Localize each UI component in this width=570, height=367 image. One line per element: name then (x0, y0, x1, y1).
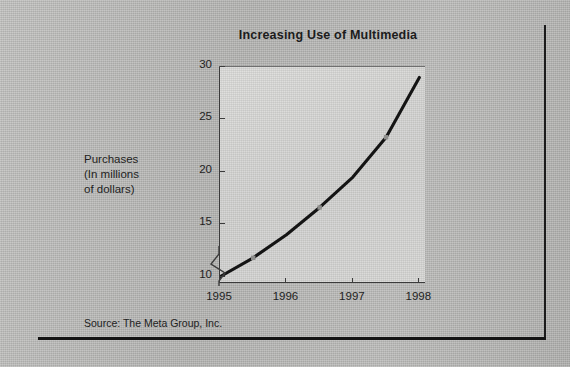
y-axis-tick-mark (220, 171, 225, 172)
x-axis-tick-label: 1996 (263, 290, 307, 302)
data-point-marker (317, 205, 321, 209)
data-point-marker (251, 256, 255, 260)
y-axis-label: Purchases (In millions of dollars) (84, 152, 194, 197)
series-line-purchases (220, 77, 419, 276)
y-axis-break-icon (208, 246, 232, 286)
screenshot-root: Increasing Use of Multimedia Purchases (… (0, 0, 570, 367)
y-axis-label-line-2: (In millions (84, 167, 194, 182)
y-axis-tick-mark (220, 223, 225, 224)
x-axis-tick-mark (418, 278, 419, 283)
x-axis-tick-mark (219, 278, 220, 283)
x-axis-tick-label: 1998 (396, 290, 440, 302)
y-axis-tick-mark (220, 66, 225, 67)
y-axis-tick-label: 20 (186, 163, 212, 175)
data-line-chart (220, 67, 426, 284)
plot-area (219, 66, 425, 283)
data-point-marker (384, 135, 388, 139)
series-markers (251, 135, 388, 260)
y-axis-tick-label: 30 (186, 58, 212, 70)
chart-title: Increasing Use of Multimedia (228, 28, 428, 42)
y-axis-tick-label: 15 (186, 215, 212, 227)
x-axis-tick-label: 1995 (197, 290, 241, 302)
y-axis-tick-mark (220, 118, 225, 119)
x-axis-tick-mark (352, 278, 353, 283)
x-axis-tick-label: 1997 (330, 290, 374, 302)
source-note: Source: The Meta Group, Inc. (84, 317, 222, 329)
chart-figure: Increasing Use of Multimedia Purchases (… (0, 0, 570, 367)
x-axis-tick-mark (285, 278, 286, 283)
y-axis-tick-mark (220, 276, 225, 277)
y-axis-tick-label: 25 (186, 110, 212, 122)
y-axis-tick-label: 10 (186, 268, 212, 280)
y-axis-label-line-3: of dollars) (84, 182, 194, 197)
y-axis-label-line-1: Purchases (84, 152, 194, 167)
